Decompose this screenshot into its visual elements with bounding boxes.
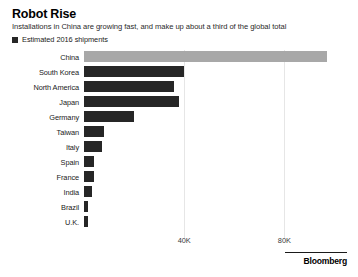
bar-track — [84, 96, 179, 107]
bar-brazil — [84, 201, 88, 212]
bar-india — [84, 186, 92, 197]
chart-legend: Estimated 2016 shipments — [12, 35, 108, 44]
bloomberg-logo: Bloomberg — [303, 256, 347, 266]
bar-rows: ChinaSouth KoreaNorth AmericaJapanGerman… — [0, 50, 358, 230]
bar-row: France — [0, 170, 358, 185]
bar-track — [84, 141, 102, 152]
category-label: Taiwan — [0, 128, 79, 138]
bar-germany — [84, 111, 134, 122]
plot-area: ChinaSouth KoreaNorth AmericaJapanGerman… — [0, 50, 358, 245]
bar-row: Japan — [0, 95, 358, 110]
bar-track — [84, 216, 88, 227]
bar-track — [84, 51, 327, 62]
category-label: Germany — [0, 113, 79, 123]
category-label: U.K. — [0, 218, 79, 228]
category-label: India — [0, 188, 79, 198]
bar-track — [84, 171, 94, 182]
category-label: Japan — [0, 98, 79, 108]
bar-north-america — [84, 81, 174, 92]
chart-card: Robot Rise Installations in China are gr… — [0, 0, 358, 277]
bar-row: Taiwan — [0, 125, 358, 140]
legend-swatch-icon — [12, 37, 18, 43]
bar-track — [84, 126, 104, 137]
legend-label: Estimated 2016 shipments — [22, 35, 108, 44]
bar-u-k- — [84, 216, 88, 227]
x-tick-label: 40K — [178, 236, 191, 245]
bar-track — [84, 111, 134, 122]
x-tick-label: 80K — [278, 236, 291, 245]
bar-track — [84, 186, 92, 197]
bar-row: Brazil — [0, 200, 358, 215]
category-label: France — [0, 173, 79, 183]
page-title: Robot Rise — [12, 8, 76, 21]
category-label: Spain — [0, 158, 79, 168]
bar-italy — [84, 141, 102, 152]
category-label: Brazil — [0, 203, 79, 213]
footer-divider — [285, 252, 347, 253]
bar-track — [84, 201, 88, 212]
category-label: North America — [0, 83, 79, 93]
bar-row: Germany — [0, 110, 358, 125]
bar-track — [84, 156, 94, 167]
bar-row: North America — [0, 80, 358, 95]
bar-row: Italy — [0, 140, 358, 155]
bar-row: South Korea — [0, 65, 358, 80]
bar-row: China — [0, 50, 358, 65]
bar-taiwan — [84, 126, 104, 137]
category-label: Italy — [0, 143, 79, 153]
category-label: China — [0, 53, 79, 63]
category-label: South Korea — [0, 68, 79, 78]
bar-japan — [84, 96, 179, 107]
bar-row: U.K. — [0, 215, 358, 230]
bar-spain — [84, 156, 94, 167]
bar-row: India — [0, 185, 358, 200]
bar-track — [84, 66, 184, 77]
bar-row: Spain — [0, 155, 358, 170]
bar-france — [84, 171, 94, 182]
chart-subtitle: Installations in China are growing fast,… — [12, 22, 286, 32]
bar-china — [84, 51, 327, 62]
bar-track — [84, 81, 174, 92]
bar-south-korea — [84, 66, 184, 77]
